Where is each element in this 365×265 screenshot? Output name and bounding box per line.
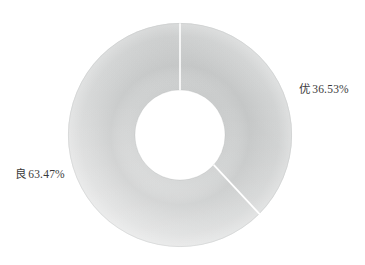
donut-chart: 优36.53% 良63.47% (0, 0, 365, 265)
donut-chart-canvas (0, 0, 365, 265)
donut-inner-hole (135, 90, 225, 180)
slice-label-liang: 良63.47% (15, 169, 65, 181)
slice-label-you-name: 优 (299, 83, 310, 95)
slice-label-liang-value: 63.47% (28, 168, 65, 180)
slice-label-you: 优36.53% (299, 84, 349, 96)
slice-label-liang-name: 良 (15, 168, 26, 180)
slice-label-you-value: 36.53% (312, 83, 349, 95)
